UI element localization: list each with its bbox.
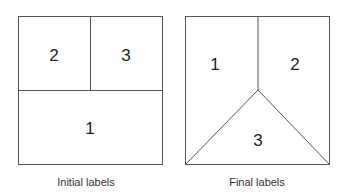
diagram-canvas: 2 3 1 Initial labels 1 2 3 Final labels: [0, 0, 345, 194]
final-region-label-3: 3: [253, 131, 262, 150]
final-left-diagonal: [186, 90, 259, 165]
final-region-label-1: 1: [210, 55, 219, 74]
initial-labels-panel: 2 3 1 Initial labels: [19, 17, 163, 189]
initial-caption: Initial labels: [57, 176, 115, 188]
initial-region-label-3: 3: [121, 46, 130, 65]
final-region-label-2: 2: [290, 55, 299, 74]
final-caption: Final labels: [229, 176, 285, 188]
final-right-diagonal: [258, 90, 330, 165]
final-labels-panel: 1 2 3 Final labels: [186, 17, 330, 189]
initial-region-label-1: 1: [85, 119, 94, 138]
initial-region-label-2: 2: [49, 46, 58, 65]
